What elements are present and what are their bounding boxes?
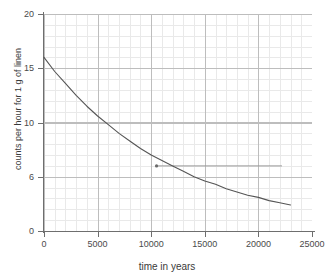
x-tick-mark [98, 232, 99, 237]
y-tick-mark [38, 177, 43, 178]
x-axis-line [43, 231, 315, 232]
y-tick-mark [38, 68, 43, 69]
y-tick-mark [38, 231, 43, 232]
x-tick-mark [44, 232, 45, 237]
x-tick-label-5000: 5000 [88, 240, 108, 249]
x-axis-title: time in years [0, 261, 334, 272]
decay-curve [44, 57, 291, 205]
data-layer [44, 14, 312, 231]
x-tick-label-15000: 15000 [192, 240, 217, 249]
y-axis-title: counts per hour for 1 g of linen [13, 0, 23, 219]
intersection-marker [155, 164, 158, 167]
y-tick-label-0: 0 [2, 227, 34, 236]
x-tick-label-0: 0 [41, 240, 46, 249]
x-tick-mark [312, 232, 313, 237]
y-tick-mark [38, 123, 43, 124]
x-tick-mark [205, 232, 206, 237]
x-tick-label-20000: 20000 [246, 240, 271, 249]
decay-chart: 20 15 10 6 0 0 5000 10000 15000 20000 25… [0, 0, 334, 280]
y-tick-mark [38, 14, 43, 15]
x-tick-mark [258, 232, 259, 237]
x-tick-mark [151, 232, 152, 237]
x-tick-label-10000: 10000 [139, 240, 164, 249]
x-tick-label-25000: 25000 [299, 240, 324, 249]
